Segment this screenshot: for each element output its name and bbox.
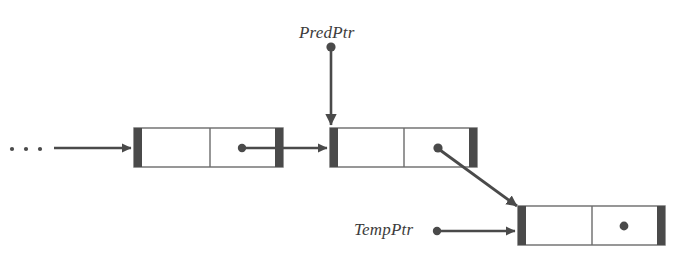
connector-predptr-to-node2 — [326, 42, 335, 125]
tempptr-label: TempPtr — [354, 221, 413, 238]
linked-list-diagram: · · — [0, 0, 675, 261]
list-continues-ellipsis — [10, 147, 42, 151]
node-new — [518, 206, 665, 245]
predptr-label: PredPtr — [299, 24, 355, 41]
node3-link-dot — [620, 222, 629, 231]
connector-tempptr-to-node3 — [433, 227, 515, 235]
